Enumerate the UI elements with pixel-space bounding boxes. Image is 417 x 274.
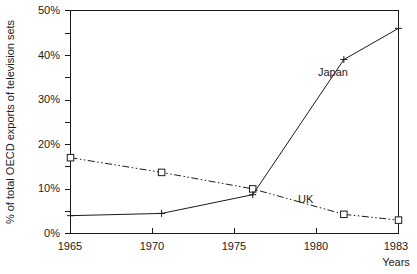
series-label-uk: UK (298, 193, 314, 205)
y-tick-label-0: 0% (44, 227, 60, 239)
series-japan (67, 25, 402, 219)
y-axis-tick-labels: 0% 10% 20% 30% 40% 50% (38, 4, 60, 239)
uk-data-point (395, 217, 402, 224)
uk-data-point (158, 169, 165, 176)
y-tick-label-4: 40% (38, 49, 60, 61)
uk-markers (67, 154, 402, 223)
japan-data-point (67, 212, 74, 219)
y-tick-label-1: 10% (38, 182, 60, 194)
x-tick-label-4: 1983 (384, 240, 408, 252)
uk-data-point (67, 154, 74, 161)
japan-data-point (158, 210, 165, 217)
axis-frame (71, 11, 399, 234)
chart-figure: 0% 10% 20% 30% 40% 50% 1965 1970 1975 19… (0, 0, 417, 274)
x-tick-label-3: 1980 (304, 240, 328, 252)
japan-data-point (340, 56, 347, 63)
y-tick-label-2: 20% (38, 138, 60, 150)
x-axis-title: Years (382, 256, 410, 268)
japan-line (71, 28, 399, 215)
uk-line (71, 158, 399, 220)
japan-data-point (395, 25, 402, 32)
x-axis-ticks (71, 228, 399, 234)
x-axis-tick-labels: 1965 1970 1975 1980 1983 (58, 240, 408, 252)
uk-data-point (341, 211, 348, 218)
y-tick-label-5: 50% (38, 4, 60, 16)
y-tick-label-3: 30% (38, 93, 60, 105)
x-tick-label-1: 1970 (140, 240, 164, 252)
series-uk (67, 154, 402, 223)
y-axis-title: % of total OECD exports of television se… (4, 19, 16, 224)
x-tick-label-0: 1965 (58, 240, 82, 252)
line-chart: 0% 10% 20% 30% 40% 50% 1965 1970 1975 19… (0, 0, 417, 274)
x-tick-label-2: 1975 (222, 240, 246, 252)
japan-markers (67, 25, 402, 219)
series-label-japan: Japan (318, 66, 348, 78)
y-axis-ticks (65, 11, 71, 234)
